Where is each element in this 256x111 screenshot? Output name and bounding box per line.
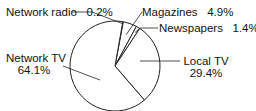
label-magazines: Magazines 4.9% <box>142 6 233 18</box>
label-newspapers: Newspapers 1.4% <box>159 22 256 34</box>
label-network-radio-value: 0.2% <box>87 6 113 18</box>
label-local-tv-name: Local TV <box>182 55 230 67</box>
label-local-tv: Local TV 29.4% <box>182 55 230 79</box>
label-local-tv-value: 29.4% <box>182 67 230 79</box>
label-magazines-value: 4.9% <box>207 6 233 18</box>
label-network-tv-value: 64.1% <box>6 64 62 76</box>
label-newspapers-value: 1.4% <box>233 22 256 34</box>
label-magazines-name: Magazines <box>142 6 198 18</box>
label-network-tv-name: Network TV <box>6 52 62 64</box>
label-newspapers-name: Newspapers <box>159 22 223 34</box>
label-network-tv: Network TV 64.1% <box>6 52 62 76</box>
label-network-radio-name: Network radio <box>6 6 77 18</box>
label-network-radio: Network radio 0.2% <box>6 6 113 18</box>
